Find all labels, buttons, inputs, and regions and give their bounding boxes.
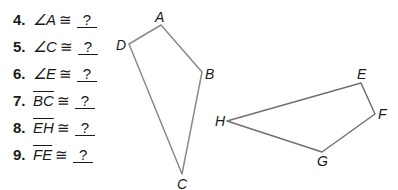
vertex-label-a: A: [154, 9, 164, 25]
vertex-label-h: H: [215, 113, 226, 129]
quadrilateral-abcd: [129, 25, 202, 174]
vertex-label-c: C: [177, 176, 188, 190]
figures-canvas: A B C D E F G H: [0, 0, 398, 190]
quadrilateral-efgh: [227, 83, 375, 152]
vertex-label-f: F: [378, 106, 388, 122]
vertex-label-g: G: [317, 153, 328, 169]
vertex-label-b: B: [205, 66, 214, 82]
vertex-label-e: E: [357, 66, 367, 82]
vertex-label-d: D: [116, 37, 126, 53]
